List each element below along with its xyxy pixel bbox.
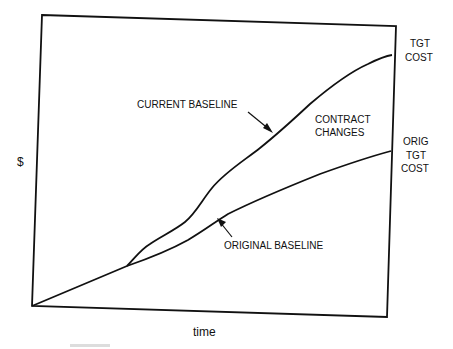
tgt-cost-label-line1: TGT xyxy=(410,38,430,49)
contract-changes-label-line2: CHANGES xyxy=(315,127,365,138)
contract-changes-label-line1: CONTRACT xyxy=(315,114,371,125)
original-baseline-arrow xyxy=(217,218,232,237)
scan-artifact xyxy=(70,344,110,347)
orig-tgt-cost-label-line3: COST xyxy=(401,163,429,174)
x-axis-label: time xyxy=(193,325,216,339)
current-baseline-line xyxy=(127,55,392,266)
orig-tgt-cost-label-line1: ORIG xyxy=(403,136,429,147)
orig-tgt-cost-label-line2: TGT xyxy=(406,150,426,161)
current-baseline-label: CURRENT BASELINE xyxy=(137,99,238,110)
original-baseline-label: ORIGINAL BASELINE xyxy=(224,240,323,251)
current-baseline-arrow xyxy=(248,112,273,133)
tgt-cost-label-line2: COST xyxy=(405,52,433,63)
original-baseline-line xyxy=(32,151,391,306)
cost-baseline-chart: $ time CURRENT BASELINE ORIGINAL BASELIN… xyxy=(0,0,453,349)
y-axis-label: $ xyxy=(17,155,24,169)
